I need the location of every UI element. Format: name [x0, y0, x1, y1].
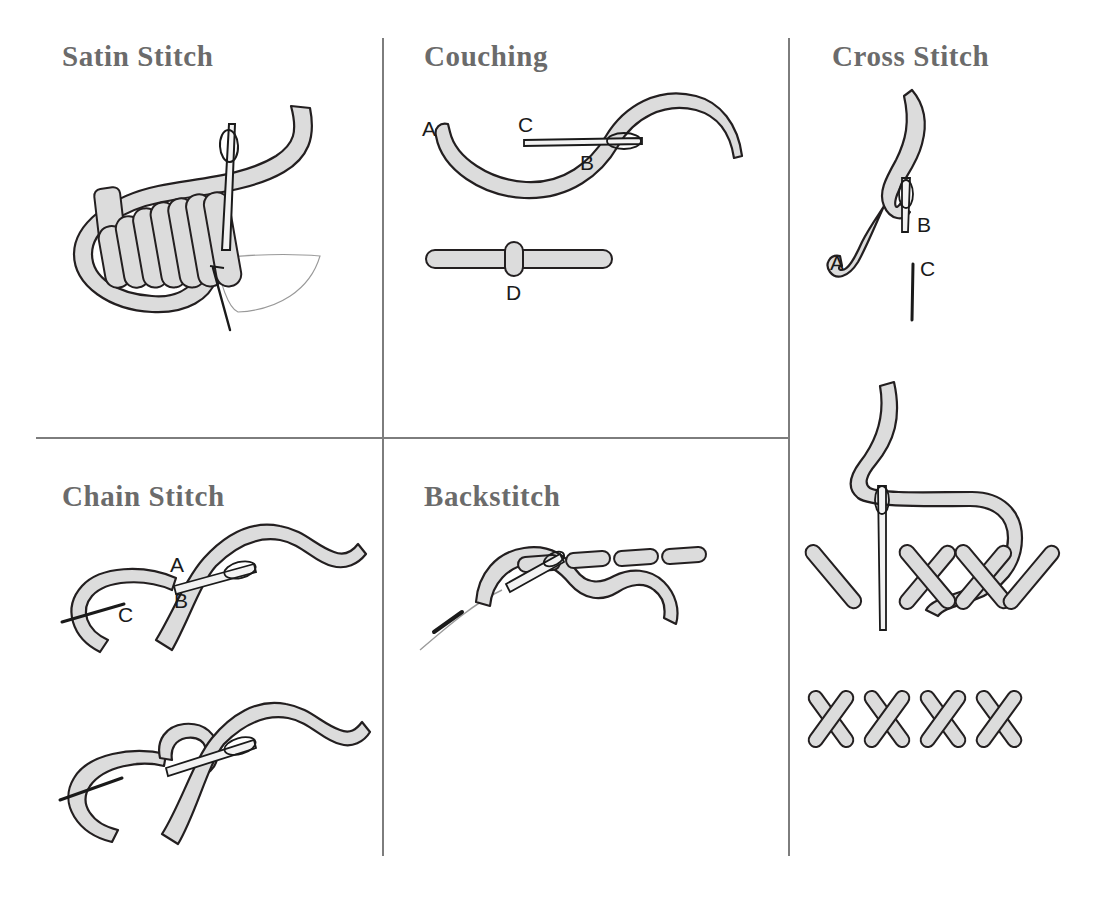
label-c: C [118, 603, 133, 626]
label-c: C [920, 257, 935, 280]
label-d: D [506, 281, 521, 304]
label-b: B [580, 151, 594, 174]
needle [899, 178, 913, 232]
couching-stitch [505, 242, 523, 276]
divider-vertical-right [788, 38, 790, 856]
stitch-diagram-sheet: Satin Stitch Couching Cross Stitch Chain… [0, 0, 1093, 898]
needle [875, 486, 889, 630]
figure-couching-step-2: D [412, 232, 642, 310]
label-b: B [917, 213, 931, 236]
label-a: A [170, 553, 184, 576]
label-b: B [174, 589, 188, 612]
label-c: C [518, 113, 533, 136]
label-a: A [422, 117, 436, 140]
cross-stitches-partial [803, 542, 1063, 612]
panel-title-couching: Couching [424, 40, 548, 73]
needle-mark [912, 264, 913, 320]
needle-point [434, 612, 462, 632]
divider-vertical-left [382, 38, 384, 856]
label-a: A [830, 251, 844, 274]
figure-backstitch [418, 526, 728, 656]
figure-cross-stitch-step-2 [810, 378, 1080, 643]
figure-chain-stitch-step-1: A B C [48, 522, 378, 657]
figure-satin-stitch [48, 82, 348, 332]
panel-title-backstitch: Backstitch [424, 480, 561, 513]
divider-horizontal [36, 437, 790, 439]
figure-chain-stitch-step-2 [48, 706, 378, 851]
thread-loop [68, 751, 166, 842]
completed-cross-stitch-row [806, 688, 1024, 750]
figure-cross-stitch-step-1: A B C [812, 82, 992, 327]
panel-title-cross-stitch: Cross Stitch [832, 40, 989, 73]
panel-title-chain-stitch: Chain Stitch [62, 480, 225, 513]
figure-couching-step-1: A C B [412, 88, 762, 218]
figure-cross-stitch-step-3 [818, 678, 1068, 760]
panel-title-satin-stitch: Satin Stitch [62, 40, 213, 73]
